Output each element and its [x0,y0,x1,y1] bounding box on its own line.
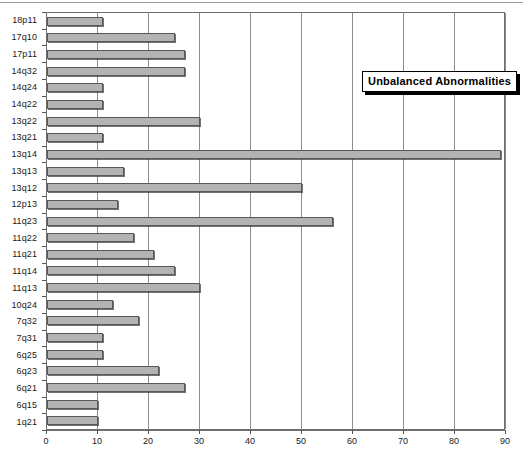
y-axis-label-6q25: 6q25 [0,346,42,363]
x-axis-tick-80 [454,430,455,434]
y-axis-tick [42,363,46,364]
bar-1q21 [47,416,98,425]
bar-row [47,30,504,47]
y-axis-label-13q14: 13q14 [0,146,42,163]
y-axis-tick [42,12,46,13]
bar-17q10 [47,33,175,42]
bar-18p11 [47,17,103,26]
bar-6q15 [47,400,98,409]
bar-row [47,396,504,413]
bar-6q23 [47,366,159,375]
x-axis-tick-20 [148,430,149,434]
y-axis-tick [42,162,46,163]
x-axis-label-10: 10 [92,436,102,446]
bar-17p11 [47,50,185,59]
x-axis-label-30: 30 [194,436,204,446]
y-axis-label-11q14: 11q14 [0,263,42,280]
y-axis-label-17p11: 17p11 [0,45,42,62]
y-axis-label-1q21: 1q21 [0,413,42,430]
bar-13q22 [47,117,200,126]
bar-14q24 [47,83,103,92]
y-axis-label-18p11: 18p11 [0,12,42,29]
y-axis-tick [42,45,46,46]
bar-row [47,229,504,246]
bar-11q21 [47,250,154,259]
y-axis-label-14q32: 14q32 [0,62,42,79]
x-axis-label-60: 60 [347,436,357,446]
y-axis-tick [42,129,46,130]
bar-7q31 [47,333,103,342]
bar-row [47,196,504,213]
y-axis-label-13q21: 13q21 [0,129,42,146]
y-axis-label-13q12: 13q12 [0,179,42,196]
bar-6q25 [47,350,103,359]
y-axis-tick [42,263,46,264]
y-axis-tick [42,397,46,398]
x-axis-label-90: 90 [500,436,510,446]
y-axis-tick [42,430,46,431]
y-axis-label-6q23: 6q23 [0,363,42,380]
y-axis-tick [42,29,46,30]
y-axis-label-11q22: 11q22 [0,229,42,246]
y-axis-tick [42,229,46,230]
x-axis-tick-60 [352,430,353,434]
bar-row [47,329,504,346]
bar-row [47,346,504,363]
bar-13q21 [47,133,103,142]
y-axis-tick [42,330,46,331]
bar-row [47,263,504,280]
bar-11q22 [47,233,134,242]
x-axis-tick-10 [97,430,98,434]
x-axis-tick-70 [403,430,404,434]
y-axis-label-11q13: 11q13 [0,280,42,297]
x-axis-tick-30 [199,430,200,434]
bar-10q24 [47,300,113,309]
y-axis-tick [42,146,46,147]
bar-row [47,213,504,230]
y-axis-tick [42,179,46,180]
y-axis-label-7q32: 7q32 [0,313,42,330]
bar-row [47,412,504,429]
bar-row [47,246,504,263]
bar-7q32 [47,316,139,325]
y-axis-tick [42,246,46,247]
y-axis-tick [42,313,46,314]
y-axis-labels: 18p1117q1017p1114q3214q2414q2213q2213q21… [0,12,42,430]
bar-13q14 [47,150,501,159]
legend: Unbalanced Abnormalities [362,71,517,92]
y-axis-label-6q21: 6q21 [0,380,42,397]
y-axis-label-13q22: 13q22 [0,112,42,129]
bar-row [47,13,504,30]
y-axis-tick [42,96,46,97]
x-axis-label-80: 80 [449,436,459,446]
y-axis-tick [42,196,46,197]
y-axis-tick [42,79,46,80]
y-axis-label-11q23: 11q23 [0,213,42,230]
x-axis-label-50: 50 [296,436,306,446]
bar-13q13 [47,167,124,176]
y-axis-label-10q24: 10q24 [0,296,42,313]
y-axis-tick [42,296,46,297]
bar-row [47,146,504,163]
bar-14q32 [47,67,185,76]
y-axis-tick [42,380,46,381]
top-divider-rule [0,2,523,3]
bar-row [47,379,504,396]
bar-14q22 [47,100,103,109]
y-axis-tick [42,62,46,63]
bar-row [47,129,504,146]
y-axis-label-13q13: 13q13 [0,162,42,179]
bar-row [47,296,504,313]
y-axis-label-17q10: 17q10 [0,29,42,46]
bar-6q21 [47,383,185,392]
y-axis-tick [42,112,46,113]
y-axis-label-14q24: 14q24 [0,79,42,96]
y-axis-tick [42,280,46,281]
legend-label: Unbalanced Abnormalities [362,71,517,92]
bar-11q13 [47,283,200,292]
x-axis-tick-50 [301,430,302,434]
bar-chart: 18p1117q1017p1114q3214q2414q2213q2213q21… [0,0,523,458]
bar-row [47,96,504,113]
y-axis-label-12p13: 12p13 [0,196,42,213]
y-axis-label-11q21: 11q21 [0,246,42,263]
